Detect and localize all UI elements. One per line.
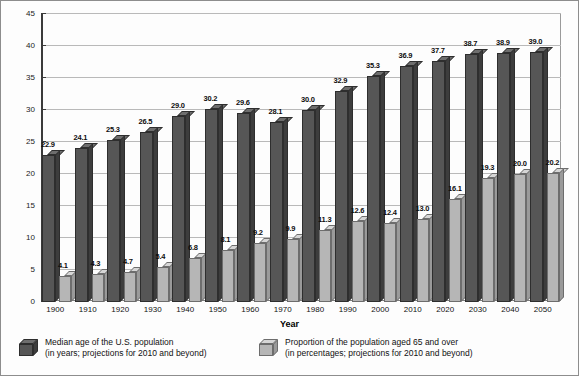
bar <box>547 173 559 302</box>
x-tick-label: 1940 <box>169 305 202 314</box>
bar <box>319 230 331 302</box>
x-tick-label: 2040 <box>494 305 527 314</box>
bar <box>124 272 136 302</box>
bar-value-label: 12.6 <box>351 206 365 215</box>
bar-value-label: 36.9 <box>399 51 413 60</box>
x-tick-label: 2050 <box>527 305 560 314</box>
bar-value-label: 6.8 <box>188 243 198 252</box>
y-tick-mark <box>41 109 46 110</box>
bar-value-label: 20.0 <box>513 159 527 168</box>
x-tick-label: 1980 <box>299 305 332 314</box>
bar <box>222 250 234 302</box>
bar <box>287 239 299 302</box>
bar <box>140 132 153 302</box>
bar <box>432 61 445 302</box>
bar <box>497 53 510 302</box>
bar <box>482 178 494 302</box>
x-tick-label: 1930 <box>137 305 170 314</box>
bar <box>254 243 266 302</box>
bar <box>367 76 380 302</box>
bar <box>205 109 218 302</box>
plot-area: 22.94.124.14.325.34.726.55.429.06.830.28… <box>41 13 561 303</box>
gridline <box>41 13 561 14</box>
bar <box>465 54 478 302</box>
legend-label-elderly-share: Proportion of the population aged 65 and… <box>285 337 473 359</box>
bar-value-label: 38.9 <box>496 38 510 47</box>
y-tick-label: 0 <box>7 297 35 306</box>
bar-value-label: 4.7 <box>123 257 133 266</box>
dark-cube-icon <box>19 339 38 356</box>
x-tick-label: 2000 <box>364 305 397 314</box>
x-axis-labels: 1900191019201930194019501960197019801990… <box>41 305 561 319</box>
bar-value-label: 25.3 <box>106 125 120 134</box>
y-tick-label: 45 <box>7 9 35 18</box>
legend-entry-median-age: Median age of the U.S. population (in ye… <box>19 337 207 359</box>
chart-frame: 051015202530354045 22.94.124.14.325.34.7… <box>0 0 579 376</box>
x-tick-label: 2010 <box>397 305 430 314</box>
legend-line-2: (in percentages; projections for 2010 an… <box>285 348 473 359</box>
bar-value-label: 26.5 <box>139 117 153 126</box>
bar <box>352 221 364 302</box>
bar-value-label: 4.1 <box>58 261 68 270</box>
y-tick-label: 5 <box>7 265 35 274</box>
bar <box>514 174 526 302</box>
bar-value-label: 9.2 <box>253 228 263 237</box>
gridline <box>41 109 561 110</box>
legend-line-1: Proportion of the population aged 65 and… <box>285 337 458 347</box>
bar <box>92 274 104 302</box>
y-tick-label: 40 <box>7 41 35 50</box>
bar-value-label: 8.1 <box>221 235 231 244</box>
y-tick-mark <box>41 13 46 14</box>
bar <box>384 223 396 302</box>
bar <box>449 199 461 302</box>
bar <box>157 267 169 302</box>
x-tick-label: 1900 <box>39 305 72 314</box>
y-tick-label: 35 <box>7 73 35 82</box>
bar-value-label: 22.9 <box>41 140 55 149</box>
bar-value-label: 30.2 <box>204 94 218 103</box>
bar-value-label: 32.9 <box>334 76 348 85</box>
bar <box>530 52 543 302</box>
bar-value-label: 12.4 <box>383 208 397 217</box>
bar-value-label: 29.0 <box>171 101 185 110</box>
bar-value-label: 28.1 <box>269 107 283 116</box>
light-cube-icon <box>259 339 278 356</box>
y-axis-labels: 051015202530354045 <box>1 13 35 303</box>
legend-entry-elderly-share: Proportion of the population aged 65 and… <box>259 337 473 359</box>
bar-value-label: 13.0 <box>416 204 430 213</box>
x-tick-label: 2020 <box>429 305 462 314</box>
chart-legend: Median age of the U.S. population (in ye… <box>1 333 579 375</box>
bar-value-label: 4.3 <box>91 259 101 268</box>
y-tick-label: 10 <box>7 233 35 242</box>
bar <box>302 110 315 302</box>
bar <box>400 66 413 302</box>
x-tick-label: 1950 <box>202 305 235 314</box>
bar-value-label: 11.3 <box>318 215 331 224</box>
bar <box>417 219 429 302</box>
bar <box>189 258 201 302</box>
legend-label-median-age: Median age of the U.S. population (in ye… <box>45 337 207 359</box>
bar <box>335 91 348 302</box>
y-tick-label: 20 <box>7 169 35 178</box>
bar-value-label: 29.6 <box>236 98 250 107</box>
bar <box>107 140 120 302</box>
legend-line-1: Median age of the U.S. population <box>45 337 174 347</box>
bar-value-label: 19.3 <box>481 163 495 172</box>
bar <box>270 122 283 302</box>
bar-value-label: 16.1 <box>448 184 462 193</box>
x-axis-title: Year <box>1 319 578 329</box>
y-tick-mark <box>41 45 46 46</box>
bar-value-label: 37.7 <box>431 46 445 55</box>
bar <box>237 113 250 302</box>
bar <box>59 276 71 302</box>
x-tick-label: 1910 <box>72 305 105 314</box>
x-tick-label: 2030 <box>462 305 495 314</box>
y-tick-label: 25 <box>7 137 35 146</box>
bar-value-label: 9.9 <box>286 224 296 233</box>
bar-value-label: 38.7 <box>464 39 478 48</box>
bar-value-label: 30.0 <box>301 95 315 104</box>
bar-value-label: 24.1 <box>74 133 88 142</box>
gridline <box>41 77 561 78</box>
bar-value-label: 39.0 <box>529 37 543 46</box>
gridline <box>41 45 561 46</box>
